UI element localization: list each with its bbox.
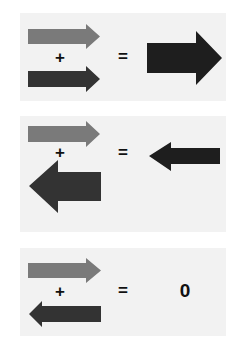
equals-sign: =: [113, 281, 133, 301]
arrow-right-light-icon: [28, 24, 100, 49]
arrow-right-result-large-icon: [147, 31, 222, 85]
equals-sign: =: [113, 47, 133, 67]
plus-sign: +: [50, 143, 70, 163]
arrow-left-dark-large-icon: [29, 160, 101, 213]
plus-sign: +: [50, 282, 70, 302]
zero-result: 0: [175, 280, 195, 302]
panel-unequal-opposite: + =: [20, 116, 226, 232]
panel-same-direction: + =: [20, 13, 226, 101]
arrow-right-dark-icon: [28, 66, 100, 92]
plus-sign: +: [50, 48, 70, 68]
equals-sign: =: [113, 143, 133, 163]
arrow-left-result-small-icon: [149, 142, 220, 171]
arrow-right-light-icon: [28, 258, 101, 283]
panel-2-arrows: [20, 116, 226, 232]
panel-equal-opposite: + = 0: [20, 248, 226, 336]
arrow-left-dark-icon: [29, 301, 101, 327]
